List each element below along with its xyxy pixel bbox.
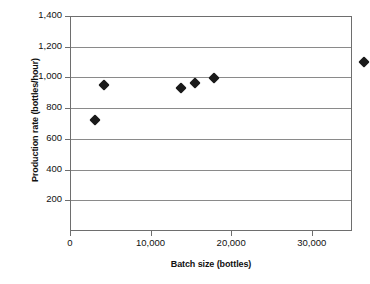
y-axis-tick: [65, 108, 70, 109]
x-axis-title: Batch size (bottles): [70, 259, 352, 269]
y-axis-tick: [65, 139, 70, 140]
y-axis-tick-label: 1,000: [2, 70, 62, 81]
data-point: [89, 114, 100, 125]
data-point: [189, 77, 200, 88]
x-axis-tick: [231, 231, 232, 236]
y-axis-tick-label: 1,400: [2, 9, 62, 20]
gridline-y: [71, 200, 351, 201]
scatter-chart: Production rate (bottles/hour) 200400600…: [0, 0, 370, 284]
x-axis-tick-label: 10,000: [116, 237, 186, 248]
data-point: [98, 80, 109, 91]
x-axis-tick-label: 0: [35, 237, 105, 248]
x-axis-tick-label: 20,000: [196, 237, 266, 248]
y-axis-tick-label: 600: [2, 132, 62, 143]
x-axis-tick-label: 30,000: [277, 237, 347, 248]
y-axis-tick-label: 1,200: [2, 40, 62, 51]
y-axis-tick-label: 800: [2, 101, 62, 112]
data-point: [208, 73, 219, 84]
y-axis-tick: [65, 77, 70, 78]
plot-area: [70, 16, 352, 231]
y-axis-tick: [65, 16, 70, 17]
y-axis-tick-label: 200: [2, 193, 62, 204]
gridline-y: [71, 170, 351, 171]
x-axis-tick: [312, 231, 313, 236]
y-axis-tick: [65, 47, 70, 48]
y-axis-tick: [65, 200, 70, 201]
y-axis-tick: [65, 170, 70, 171]
gridline-y: [71, 108, 351, 109]
gridline-y: [71, 139, 351, 140]
y-axis-tick-label: 400: [2, 163, 62, 174]
data-point: [359, 57, 370, 68]
gridline-y: [71, 47, 351, 48]
x-axis-tick: [70, 231, 71, 236]
data-point: [175, 82, 186, 93]
x-axis-tick: [151, 231, 152, 236]
